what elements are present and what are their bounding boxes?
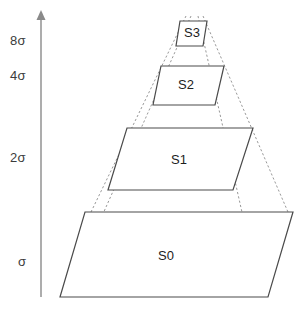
axis-tick-label: 8σ [10, 33, 26, 48]
axis-tick-label: σ [18, 254, 26, 269]
layer-label-s1: S1 [171, 152, 187, 167]
layer-label-s2: S2 [178, 77, 194, 92]
axis-arrow-icon [37, 10, 46, 20]
layer-shape-s0[interactable] [60, 212, 293, 297]
layer-label-s0: S0 [158, 248, 174, 263]
axis-tick-label: 2σ [10, 150, 26, 165]
axis-tick-label: 4σ [10, 68, 26, 83]
sigma-axis [37, 10, 46, 297]
diagram-canvas [0, 0, 304, 317]
pyramid-diagram: 8σ4σ2σσ S0S1S2S3 [0, 0, 304, 317]
layer-label-s3: S3 [184, 25, 200, 40]
